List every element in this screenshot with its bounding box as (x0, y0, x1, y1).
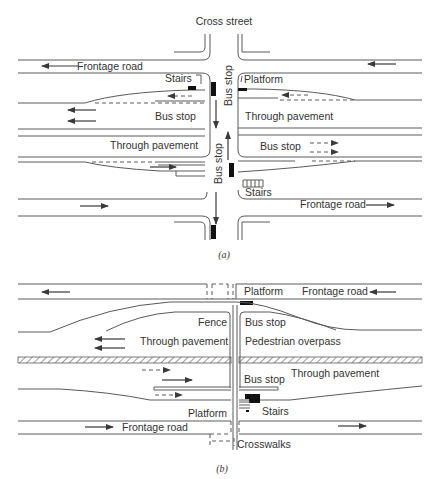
bus-bay-bottom-right-curve (239, 386, 422, 400)
diagram-a: Cross street Frontage road Stairs Bus st… (18, 15, 422, 261)
bus-bay-left-lower (18, 162, 205, 171)
frontage-road-bottom-b-label: Frontage road (122, 421, 188, 433)
crosswalks-label: Crosswalks (237, 438, 291, 450)
pedestrian-overpass-label: Pedestrian overpass (245, 335, 341, 347)
frontage-road-top-b-label: Frontage road (302, 285, 368, 297)
bus-bay-bottom-right-edge (239, 387, 278, 390)
bus-bay-bottom-left-curve (18, 389, 231, 400)
frontage-road-top-label: Frontage road (77, 60, 143, 72)
through-pavement-left-label: Through pavement (110, 139, 198, 151)
bus-stop-marker-south (229, 163, 234, 177)
through-pavement-left-b-label: Through pavement (140, 335, 228, 347)
stairs-block-1 (245, 394, 260, 399)
stairs-top-label: Stairs (165, 72, 192, 84)
frontage-road-bottom-label: Frontage road (300, 198, 366, 210)
through-pavement-right-label: Through pavement (245, 110, 333, 122)
through-pavement-right-b-label: Through pavement (291, 367, 379, 379)
cross-street-label: Cross street (196, 15, 253, 27)
bus-stop-vertical-bottom-label: Bus stop (212, 143, 224, 184)
corner-top-left-inner (174, 34, 205, 52)
bus-stop-left-label: Bus stop (155, 110, 196, 122)
stairs-bottom-label: Stairs (245, 186, 272, 198)
platform-top-label: Platform (244, 285, 283, 297)
bus-stop-marker-far (211, 225, 216, 239)
bus-stop-bottom-b-label: Bus stop (244, 373, 285, 385)
bus-stop-layout-diagram: Cross street Frontage road Stairs Bus st… (0, 0, 439, 479)
bus-stop-right-label: Bus stop (260, 140, 301, 152)
crosswalk-top (207, 284, 233, 299)
stairs-b-steps (239, 402, 250, 412)
median-barrier-left (18, 357, 231, 363)
diagram-b: Platform Frontage road Fence Bus stop Th… (18, 284, 422, 475)
median-barrier-right (239, 357, 422, 363)
fence-label: Fence (198, 316, 227, 328)
bus-bay-right-lower (238, 161, 355, 172)
platform-label: Platform (244, 73, 283, 85)
caption-b: (b) (216, 463, 228, 475)
platform-marker (238, 88, 247, 91)
stairs-b-label: Stairs (262, 405, 289, 417)
caption-a: (a) (218, 249, 230, 261)
corner-top-right-outer (238, 34, 422, 60)
bus-bay-bottom-left-edge (154, 387, 231, 390)
stairs-top-outline (196, 75, 201, 84)
crosswalk-bottom (210, 421, 239, 446)
corner-top-left-outer (18, 34, 210, 60)
platform-bottom-label: Platform (188, 407, 227, 419)
corner-top-right-inner (242, 34, 270, 52)
bus-stop-vertical-top-label: Bus stop (222, 65, 234, 106)
bus-stop-marker-north (211, 82, 216, 96)
bus-stop-top-b-label: Bus stop (245, 316, 286, 328)
stairs-top-block (188, 86, 196, 90)
stairs-block-2 (249, 399, 260, 403)
